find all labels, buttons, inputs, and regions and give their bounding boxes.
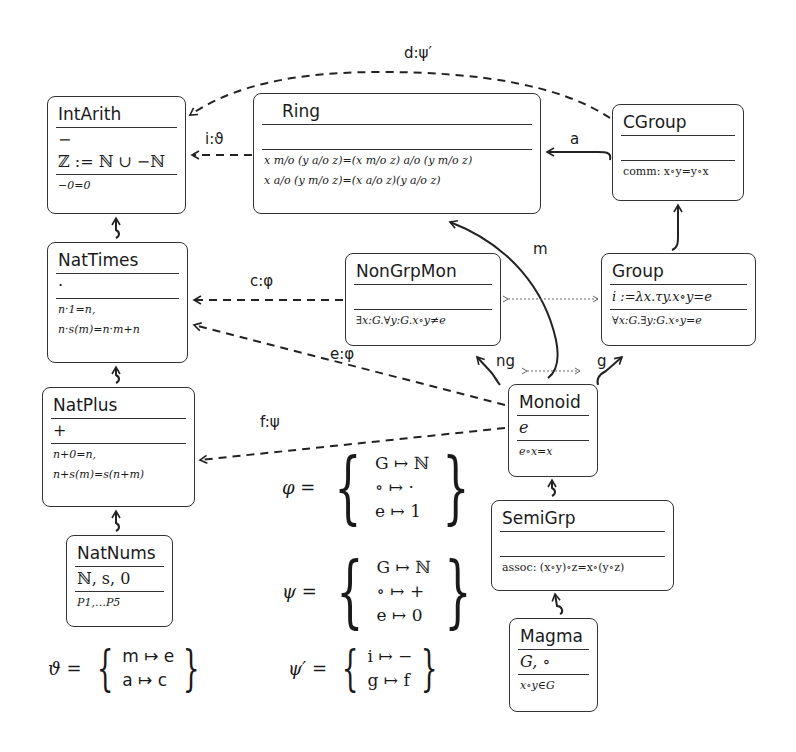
mapping-psiprime: ψ′ = { i ↦ − g ↦ f } [288, 644, 445, 692]
box-signature [621, 136, 735, 161]
box-title: NatNums [75, 540, 164, 567]
box-signature [500, 532, 665, 557]
box-signature [354, 285, 492, 310]
box-title: Group [610, 258, 747, 285]
box-monoid: Monoid e e∘x=x [508, 384, 598, 477]
right-brace: } [444, 552, 471, 630]
edge-nattimes-intarith [116, 218, 119, 238]
box-title: IntArith [56, 101, 177, 128]
box-axioms: comm: x∘y=y∘x [621, 161, 735, 183]
box-signature: e [517, 416, 589, 441]
mapping-psi: ψ = { G ↦ ℕ ∘ ↦ + e ↦ 0 } [282, 552, 482, 630]
edge-magma-semigrp [555, 594, 562, 614]
left-brace: { [342, 644, 359, 692]
box-axioms: e∘x=x [517, 441, 589, 463]
box-magma: Magma G, ∘ x∘y∈G [509, 618, 598, 712]
box-axioms: x∘y∈G [518, 675, 589, 697]
box-axioms: assoc: (x∘y)∘z=x∘(y∘z) [500, 557, 665, 579]
edge-label-a: a [570, 130, 579, 148]
box-signature: + [51, 419, 186, 444]
box-axioms: n+0=n, n+s(m)=s(n+m) [51, 444, 186, 486]
box-axioms: ∀x:G.∃y:G.x∘y=e [610, 310, 747, 332]
box-signature: ℕ, s, 0 [75, 567, 164, 592]
box-title: NatTimes [56, 247, 179, 274]
edge-label-m: m [533, 240, 548, 258]
box-signature: i :=λx.τy.x∘y=e [610, 285, 747, 310]
left-brace: { [335, 448, 362, 526]
box-signature: · [56, 274, 179, 299]
box-group: Group i :=λx.τy.x∘y=e ∀x:G.∃y:G.x∘y=e [601, 253, 756, 346]
right-brace: } [183, 644, 200, 692]
box-title: SemiGrp [500, 505, 665, 532]
box-nattimes: NatTimes · n·1=n, n·s(m)=n·m+n [47, 242, 188, 363]
mapping-theta: ϑ = { m ↦ e a ↦ c } [48, 644, 207, 692]
mapping-rows: G ↦ ℕ ∘ ↦ · e ↦ 1 [375, 451, 429, 523]
box-semigrp: SemiGrp assoc: (x∘y)∘z=x∘(y∘z) [491, 500, 674, 591]
edge-semigrp-monoid [552, 480, 555, 496]
box-axioms: ∃x:G.∀y:G.x∘y≠e [354, 310, 492, 332]
mapping-rows: G ↦ ℕ ∘ ↦ + e ↦ 0 [377, 555, 431, 627]
box-natplus: NatPlus + n+0=n, n+s(m)=s(n+m) [42, 387, 195, 507]
right-brace: } [421, 644, 438, 692]
edge-label-c: c:φ [250, 272, 273, 290]
box-axioms: −0=0 [56, 175, 177, 197]
box-axioms: P1,…P5 [75, 592, 164, 614]
box-signature: G, ∘ [518, 650, 589, 675]
edge-group-cgroup [672, 205, 678, 250]
edge-label-e: e:φ [330, 345, 354, 363]
box-signature [262, 125, 532, 150]
mapping-rows: i ↦ − g ↦ f [368, 644, 413, 692]
edge-label-g: g [597, 352, 607, 370]
edge-label-i: i:ϑ [205, 130, 224, 148]
box-title: CGroup [621, 109, 735, 136]
edge-label-f: f:ψ [260, 413, 280, 431]
edge-natplus-nattimes [116, 367, 119, 383]
right-brace: } [442, 448, 469, 526]
box-intarith: IntArith − ℤ := ℕ ∪ −ℕ −0=0 [47, 96, 186, 214]
box-nongrpmon: NonGrpMon ∃x:G.∀y:G.x∘y≠e [345, 253, 501, 346]
box-ring: Ring x m/ᴏ (y a/ᴏ z)=(x m/ᴏ z) a/ᴏ (y m/… [253, 93, 541, 214]
box-title: Monoid [517, 389, 589, 416]
box-title: NonGrpMon [354, 258, 492, 285]
edge-label-ng: ng [496, 352, 515, 370]
box-title: Ring [262, 98, 532, 125]
box-title: Magma [518, 623, 589, 650]
box-axioms: x m/ᴏ (y a/ᴏ z)=(x m/ᴏ z) a/ᴏ (y m/ᴏ z) … [262, 150, 532, 192]
box-title: NatPlus [51, 392, 186, 419]
left-brace: { [97, 644, 114, 692]
box-cgroup: CGroup comm: x∘y=y∘x [612, 104, 744, 201]
mapping-rows: m ↦ e a ↦ c [122, 644, 174, 692]
box-natnums: NatNums ℕ, s, 0 P1,…P5 [66, 535, 173, 627]
left-brace: { [336, 552, 363, 630]
box-signature: − ℤ := ℕ ∪ −ℕ [56, 128, 177, 175]
box-axioms: n·1=n, n·s(m)=n·m+n [56, 299, 179, 341]
edge-label-d: d:ψ′ [404, 44, 432, 62]
mapping-phi: φ = { G ↦ ℕ ∘ ↦ · e ↦ 1 } [282, 448, 481, 526]
edge-a [547, 152, 610, 160]
edge-natnums-natplus [116, 511, 119, 531]
